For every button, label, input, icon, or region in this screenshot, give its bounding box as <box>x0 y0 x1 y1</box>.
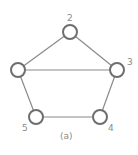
node-label-2: 2 <box>67 13 73 23</box>
graph-diagram: 2 3 4 5 (a) <box>0 0 138 155</box>
node-2 <box>63 25 77 39</box>
node-5 <box>29 110 43 124</box>
node-1 <box>11 63 25 77</box>
node-label-3: 3 <box>127 57 133 67</box>
figure-caption: (a) <box>60 131 73 141</box>
edge-2-3 <box>70 32 117 70</box>
node-4 <box>93 110 107 124</box>
graph-svg: 2 3 4 5 (a) <box>0 0 138 155</box>
edge-1-2 <box>18 32 70 70</box>
node-3 <box>110 63 124 77</box>
node-label-5: 5 <box>22 123 28 133</box>
node-label-4: 4 <box>108 123 114 133</box>
